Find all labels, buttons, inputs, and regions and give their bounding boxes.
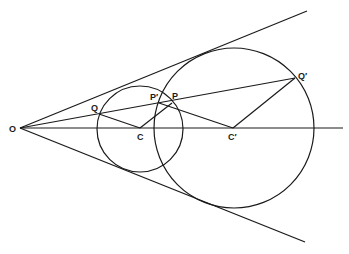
small-circle [97,86,183,172]
segment-Pprime-Cprime [159,103,233,128]
lower-tangent-line [20,128,305,242]
label-C: C [137,132,144,142]
upper-tangent-line [20,11,307,128]
segment-Cprime-Qprime [233,78,295,128]
segment-C-P [140,103,172,128]
label-C-prime: C′ [228,132,237,142]
label-O: O [9,124,16,134]
segment-Q-C [99,114,140,128]
label-P-prime: P′ [150,92,158,102]
label-Q: Q [91,103,98,113]
label-P: P [172,91,178,101]
label-Q-prime: Q′ [298,71,307,81]
homothety-diagram: O Q C P′ P C′ Q′ [0,0,349,254]
